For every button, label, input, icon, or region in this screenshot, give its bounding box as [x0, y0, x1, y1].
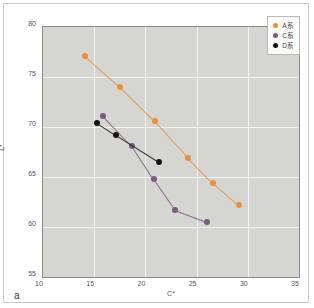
- series-line-C系: [153, 179, 175, 211]
- series-line-D系: [115, 135, 159, 163]
- data-point: [152, 118, 158, 124]
- gridline-vertical: [145, 27, 146, 277]
- data-point: [82, 53, 88, 59]
- x-tick-label: 10: [35, 280, 43, 287]
- data-point: [100, 113, 106, 119]
- series-line-A系: [188, 158, 213, 184]
- legend: A系C系D系: [267, 16, 300, 55]
- y-tick-label: 80: [10, 20, 36, 27]
- y-tick-label: 60: [10, 220, 36, 227]
- gridline-vertical: [197, 27, 198, 277]
- x-tick-label: 20: [137, 280, 145, 287]
- data-point: [172, 207, 178, 213]
- gridline-horizontal: [43, 177, 299, 178]
- legend-item-A系[interactable]: A系: [271, 21, 294, 30]
- x-tick-label: 30: [240, 280, 248, 287]
- data-point: [151, 176, 157, 182]
- legend-marker-icon: [273, 33, 278, 38]
- data-point: [185, 155, 191, 161]
- legend-label: D系: [282, 41, 294, 50]
- x-tick-label: 25: [189, 280, 197, 287]
- legend-label: A系: [282, 21, 293, 30]
- legend-marker-icon: [273, 23, 278, 28]
- series-line-A系: [119, 87, 155, 122]
- series-line-A系: [212, 183, 238, 206]
- plot-area: [42, 26, 300, 278]
- legend-item-D系[interactable]: D系: [271, 41, 294, 50]
- data-point: [113, 132, 119, 138]
- y-tick-label: 70: [10, 120, 36, 127]
- data-point: [236, 202, 242, 208]
- x-axis-label: C*: [42, 290, 300, 297]
- data-point: [210, 180, 216, 186]
- data-point: [117, 84, 123, 90]
- legend-marker-icon: [273, 43, 278, 48]
- data-point: [156, 159, 162, 165]
- y-axis-label: L*: [0, 144, 5, 151]
- y-tick-label: 75: [10, 70, 36, 77]
- series-line-A系: [84, 56, 119, 88]
- gridline-vertical: [248, 27, 249, 277]
- gridline-horizontal: [43, 127, 299, 128]
- y-tick-label: 65: [10, 170, 36, 177]
- gridline-horizontal: [43, 227, 299, 228]
- legend-item-C系[interactable]: C系: [271, 31, 294, 40]
- legend-label: C系: [282, 31, 294, 40]
- data-point: [94, 120, 100, 126]
- y-tick-label: 55: [10, 270, 36, 277]
- x-tick-label: 15: [86, 280, 94, 287]
- series-line-C系: [175, 210, 207, 223]
- chart-card: C* L* A系C系D系 a 101520253035556065707580: [3, 3, 309, 303]
- gridline-horizontal: [43, 77, 299, 78]
- data-point: [204, 219, 210, 225]
- panel-label: a: [14, 290, 20, 301]
- x-tick-label: 35: [291, 280, 299, 287]
